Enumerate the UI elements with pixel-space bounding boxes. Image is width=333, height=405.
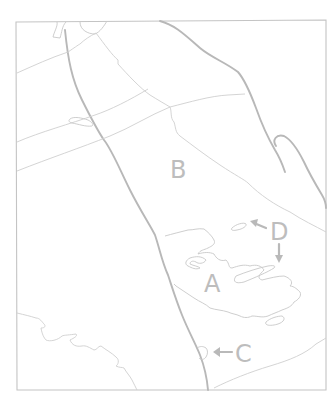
arrow-d-upper-icon	[250, 219, 266, 228]
arrow-d-down-icon	[275, 244, 283, 263]
d-target-ellipse-lower	[234, 266, 274, 283]
boundary-middle-1	[17, 89, 148, 142]
d-target-ellipse-upper	[231, 223, 246, 230]
boundary-east-inner	[170, 107, 326, 232]
arrow-c-left-icon	[213, 347, 232, 357]
label-b: B	[170, 156, 186, 184]
small-elongated-feature-west	[69, 117, 93, 126]
sketch-map: B A D C	[0, 0, 333, 405]
boundary-southeast	[214, 338, 326, 388]
label-a: A	[204, 270, 221, 298]
boundary-southwest	[17, 313, 137, 390]
label-c: C	[235, 340, 252, 368]
boundary-middle-2	[17, 94, 245, 171]
major-boundary-west	[65, 30, 208, 390]
small-ellipse-south	[266, 316, 284, 325]
region-a-arm	[186, 257, 206, 269]
peninsula-outline	[274, 136, 326, 208]
major-boundary-east	[160, 21, 285, 172]
boundary-ne	[96, 33, 170, 107]
small-loop-top-right	[80, 21, 107, 34]
boundary-upper-left	[17, 33, 96, 73]
map-frame	[16, 20, 326, 390]
label-d: D	[270, 218, 288, 246]
